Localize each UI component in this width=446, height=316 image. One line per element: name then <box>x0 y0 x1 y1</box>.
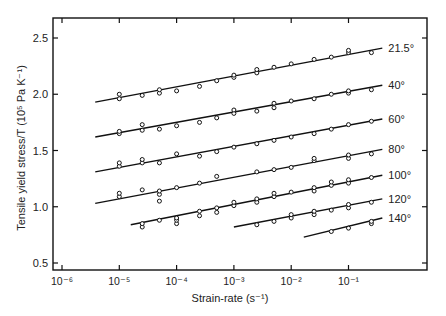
series-label: 140° <box>388 212 411 224</box>
data-point <box>347 123 351 127</box>
data-point <box>312 132 316 136</box>
series-label: 120° <box>388 193 411 205</box>
data-point <box>329 180 333 184</box>
data-point <box>175 216 179 220</box>
y-tick-label: 1.0 <box>33 201 48 213</box>
data-point <box>157 88 161 92</box>
y-tick-label: 2.5 <box>33 32 48 44</box>
data-point <box>117 97 121 101</box>
data-point <box>140 222 144 226</box>
series-layer: 21.5°40°60°80°100°120°140° <box>95 42 414 237</box>
x-tick-label: 10⁻³ <box>223 275 245 287</box>
data-point <box>175 186 179 190</box>
data-point <box>117 92 121 96</box>
data-point <box>312 156 316 160</box>
x-tick-label: 10⁻⁶ <box>51 275 73 287</box>
data-point <box>140 188 144 192</box>
data-point <box>369 152 373 156</box>
data-point <box>140 128 144 132</box>
data-point <box>272 138 276 142</box>
data-point <box>312 97 316 101</box>
data-point <box>198 209 202 213</box>
fit-line <box>95 119 382 172</box>
data-point <box>289 62 293 66</box>
data-point <box>215 79 219 83</box>
data-point <box>157 199 161 203</box>
data-point <box>255 142 259 146</box>
data-point <box>175 89 179 93</box>
data-point <box>329 208 333 212</box>
data-point <box>272 101 276 105</box>
fit-line <box>95 149 382 203</box>
x-tick-label: 10⁻¹ <box>338 275 360 287</box>
data-point <box>272 168 276 172</box>
data-point <box>255 109 259 113</box>
data-point <box>140 158 144 162</box>
data-point <box>198 181 202 185</box>
data-point <box>215 116 219 120</box>
series-40-deg: 40° <box>95 79 405 137</box>
data-point <box>329 55 333 59</box>
data-point <box>347 48 351 52</box>
data-point <box>347 203 351 207</box>
series-label: 40° <box>388 79 405 91</box>
x-tick-label: 10⁻⁵ <box>108 275 130 287</box>
data-point <box>255 223 259 227</box>
series-label: 21.5° <box>388 42 414 54</box>
data-point <box>347 226 351 230</box>
data-point <box>215 206 219 210</box>
series-label: 60° <box>388 113 405 125</box>
series-80-deg: 80° <box>95 143 405 203</box>
data-point <box>157 189 161 193</box>
data-point <box>369 119 373 123</box>
data-point <box>117 161 121 165</box>
series-60-deg: 60° <box>95 113 405 172</box>
data-point <box>232 145 236 149</box>
data-point <box>215 174 219 178</box>
data-point <box>369 219 373 223</box>
data-point <box>289 165 293 169</box>
data-point <box>175 152 179 156</box>
data-point <box>347 89 351 93</box>
data-point <box>289 190 293 194</box>
data-point <box>272 219 276 223</box>
data-point <box>232 200 236 204</box>
data-point <box>117 129 121 133</box>
data-point <box>329 127 333 131</box>
data-point <box>272 106 276 110</box>
data-point <box>347 153 351 157</box>
x-tick-label: 10⁻² <box>281 275 303 287</box>
data-point <box>272 191 276 195</box>
data-point <box>157 161 161 165</box>
x-axis-label: Strain-rate (s⁻¹) <box>192 292 269 304</box>
y-axis-label: Tensile yield stress/T (10⁵ Pa K⁻¹) <box>15 65 27 231</box>
data-point <box>215 210 219 214</box>
data-point <box>157 127 161 131</box>
data-point <box>157 218 161 222</box>
data-point <box>232 73 236 77</box>
y-tick-label: 1.5 <box>33 145 48 157</box>
y-tick-label: 0.5 <box>33 257 48 269</box>
data-point <box>140 123 144 127</box>
data-point <box>369 176 373 180</box>
data-point <box>329 92 333 96</box>
data-point <box>198 154 202 158</box>
data-point <box>255 170 259 174</box>
data-point <box>289 135 293 139</box>
data-point <box>175 124 179 128</box>
plot-frame <box>53 18 427 270</box>
data-point <box>215 150 219 154</box>
data-point <box>312 209 316 213</box>
data-point <box>369 51 373 55</box>
data-point <box>198 214 202 218</box>
series-label: 100° <box>388 169 411 181</box>
strain-rate-yield-stress-chart: 0.51.01.52.02.5 10⁻⁶10⁻⁵10⁻⁴10⁻³10⁻²10⁻¹… <box>0 0 446 316</box>
series-label: 80° <box>388 143 405 155</box>
data-point <box>272 65 276 69</box>
data-point <box>232 108 236 112</box>
data-point <box>117 191 121 195</box>
data-point <box>312 57 316 61</box>
series-140-deg: 140° <box>304 212 411 237</box>
y-tick-label: 2.0 <box>33 88 48 100</box>
series-120-deg: 120° <box>234 193 411 227</box>
